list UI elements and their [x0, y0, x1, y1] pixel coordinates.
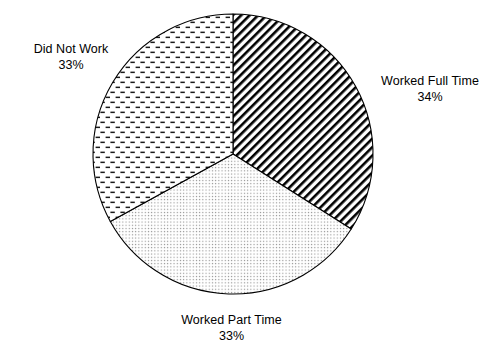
slice-label-did-not-work-name: Did Not Work [6, 42, 136, 58]
slice-label-did-not-work: Did Not Work 33% [6, 42, 136, 73]
pie-chart-figure: Worked Full Time 34% Did Not Work 33% Wo… [0, 0, 498, 356]
slice-label-worked-full-time-name: Worked Full Time [366, 74, 494, 90]
slice-label-worked-part-time-name: Worked Part Time [160, 313, 303, 329]
slice-label-worked-part-time-value: 33% [160, 329, 303, 345]
slice-label-worked-part-time: Worked Part Time 33% [160, 313, 303, 344]
slice-label-did-not-work-value: 33% [6, 58, 136, 74]
slice-label-worked-full-time: Worked Full Time 34% [366, 74, 494, 105]
slice-label-worked-full-time-value: 34% [366, 90, 494, 106]
